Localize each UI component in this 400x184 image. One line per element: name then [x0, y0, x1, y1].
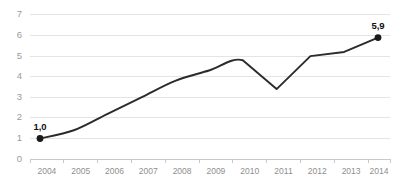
y-tick-label: 7	[17, 8, 22, 19]
data-label-2004: 1,0	[33, 121, 46, 132]
x-tick-label-2004: 2004	[37, 166, 56, 176]
x-tick-label-2006: 2006	[105, 166, 124, 176]
data-label-2014: 5,9	[371, 20, 384, 31]
data-point-marker	[375, 34, 382, 41]
chart-canvas: 7 6 5 4 3 2 1 0 2004 2005 2006 2007 2008…	[0, 0, 400, 184]
x-tick-label-2011: 2011	[274, 166, 293, 176]
y-tick-label: 2	[17, 111, 22, 122]
x-tick-label-2008: 2008	[173, 166, 192, 176]
x-tick-label-2010: 2010	[240, 166, 259, 176]
gridlines	[30, 15, 390, 139]
data-series-line	[40, 38, 378, 139]
y-tick-label: 5	[17, 50, 22, 61]
x-tick-label-2013: 2013	[342, 166, 361, 176]
data-labels: 1,0 5,9	[33, 20, 384, 132]
x-axis-tick-labels: 2004 2005 2006 2007 2008 2009 2010 2011 …	[37, 166, 388, 176]
data-point-marker	[37, 135, 44, 142]
data-markers	[37, 34, 382, 142]
line-chart: 7 6 5 4 3 2 1 0 2004 2005 2006 2007 2008…	[0, 0, 400, 184]
y-tick-label: 6	[17, 29, 22, 40]
x-tick-label-2014: 2014	[370, 166, 389, 176]
y-tick-label: 0	[17, 153, 22, 164]
x-tick-label-2009: 2009	[206, 166, 225, 176]
x-tick-label-2005: 2005	[71, 166, 90, 176]
y-tick-label: 1	[17, 132, 22, 143]
y-tick-label: 3	[17, 91, 22, 102]
x-tick-label-2007: 2007	[139, 166, 158, 176]
y-tick-label: 4	[17, 70, 22, 81]
y-axis-tick-labels: 7 6 5 4 3 2 1 0	[17, 8, 22, 163]
x-axis-tick-marks	[30, 159, 390, 163]
x-tick-label-2012: 2012	[308, 166, 327, 176]
